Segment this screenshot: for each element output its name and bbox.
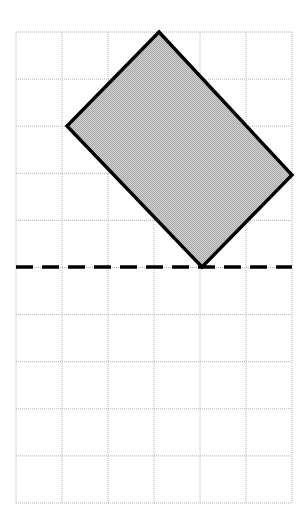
- figure-canvas: [0, 0, 304, 527]
- shaded-quadrilateral: [67, 32, 292, 267]
- figure-svg: [0, 0, 304, 527]
